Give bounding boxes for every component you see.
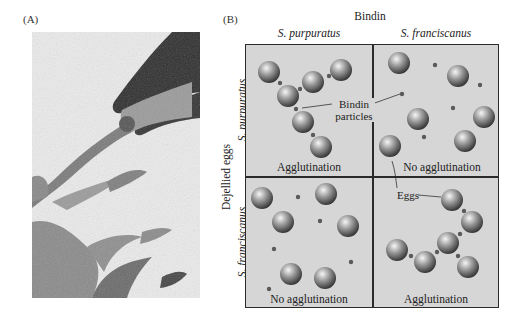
caption-cell-1-2: No agglutination [386,161,498,173]
caption-cell-2-1: No agglutination [246,293,372,305]
caption-cell-1-1: Agglutination [246,161,372,173]
grid-horizontal-divider [245,176,499,178]
cell-no-agglutination-2 [251,183,359,291]
eggs-label: Eggs [397,189,419,201]
caption-cell-2-2: Agglutination [373,293,499,305]
bindin-particles-label: Bindin particles [333,98,375,122]
cell-no-agglutination-1 [372,52,495,157]
cell-agglutination-2 [386,161,483,278]
